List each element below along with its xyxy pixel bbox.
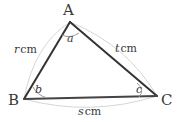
angle-label-b: b bbox=[35, 84, 42, 95]
triangle-side-ab bbox=[24, 22, 70, 99]
side-unit-t: cm bbox=[119, 42, 137, 55]
side-label-bc: scm bbox=[78, 106, 101, 117]
side-unit-r: cm bbox=[19, 43, 37, 56]
vertex-label-a: A bbox=[63, 3, 74, 18]
side-unit-s: cm bbox=[84, 105, 102, 118]
angle-label-c: c bbox=[136, 84, 142, 95]
side-label-ac: tcm bbox=[115, 43, 137, 54]
triangle-side-ac bbox=[70, 22, 157, 96]
triangle-drawing bbox=[0, 0, 179, 122]
vertex-label-b: B bbox=[8, 93, 19, 108]
side-variable-s: s bbox=[78, 105, 84, 118]
side-label-ab: rcm bbox=[14, 44, 37, 55]
angle-label-a: a bbox=[67, 33, 74, 44]
vertex-label-c: C bbox=[161, 93, 172, 108]
triangle-figure: A B C a b c rcm tcm scm bbox=[0, 0, 179, 122]
